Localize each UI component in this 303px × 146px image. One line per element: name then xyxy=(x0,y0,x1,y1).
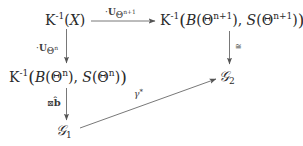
star-superscript: * xyxy=(139,88,143,96)
variable-s: S xyxy=(247,12,257,28)
superscript: n+1 xyxy=(273,11,292,21)
superscript: n+1 xyxy=(123,8,136,15)
variable-b: B xyxy=(35,69,45,85)
node-k-inverse-b-s-n-plus-1: K-1(B(Θn+1), S(Θn+1)) xyxy=(160,12,303,28)
variable-x: X xyxy=(70,12,80,28)
comma: , xyxy=(73,69,82,85)
paren-open: ( xyxy=(179,10,186,30)
label-left-lower-arrow: ⊠b̂ xyxy=(47,98,61,109)
subscript: 1 xyxy=(66,130,72,140)
script-g-symbol: 𝒢 xyxy=(219,68,229,84)
superscript: -1 xyxy=(170,11,179,21)
node-g2: 𝒢2 xyxy=(219,68,235,84)
paren-open: ( xyxy=(28,67,35,87)
variable-b: B xyxy=(186,12,196,28)
variable-s: S xyxy=(82,69,92,85)
superscript: -1 xyxy=(55,11,64,21)
script-g-symbol: 𝒢 xyxy=(56,122,66,138)
k-symbol: K xyxy=(160,12,170,28)
u-symbol: U xyxy=(39,43,47,53)
label-top-arrow: ·UΘn+1 xyxy=(105,7,136,17)
label-right-arrow-isomorphism: ≅ xyxy=(235,42,242,52)
paren-close: ) xyxy=(80,12,85,28)
box-times-symbol: ⊠ xyxy=(47,99,54,108)
k-symbol: K xyxy=(9,69,19,85)
label-left-upper-arrow: ·UΘn xyxy=(36,43,58,53)
theta-open: (Θ xyxy=(45,69,62,85)
theta-open: (Θ xyxy=(256,12,273,28)
node-k-inverse-b-s-n: K-1(B(Θn), S(Θn)) xyxy=(9,69,127,85)
node-k-inverse-x: K-1(X) xyxy=(45,12,85,28)
paren-close: ) xyxy=(120,67,127,87)
b-hat-symbol: b̂ xyxy=(54,97,61,108)
comma: , xyxy=(238,12,247,28)
arrow-diagonal xyxy=(80,79,216,128)
k-symbol: K xyxy=(45,12,55,28)
superscript: n+1 xyxy=(213,11,232,21)
label-diagonal-arrow: γ* xyxy=(134,89,143,99)
u-symbol: U xyxy=(108,7,116,17)
theta-open: (Θ xyxy=(92,69,109,85)
node-g1: 𝒢1 xyxy=(56,122,72,138)
subscript: 2 xyxy=(229,76,235,86)
superscript: -1 xyxy=(19,68,28,78)
superscript: n xyxy=(54,44,58,51)
theta-open: (Θ xyxy=(196,12,213,28)
isomorphism-symbol: ≅ xyxy=(235,42,242,51)
paren-close: ) xyxy=(298,10,303,30)
